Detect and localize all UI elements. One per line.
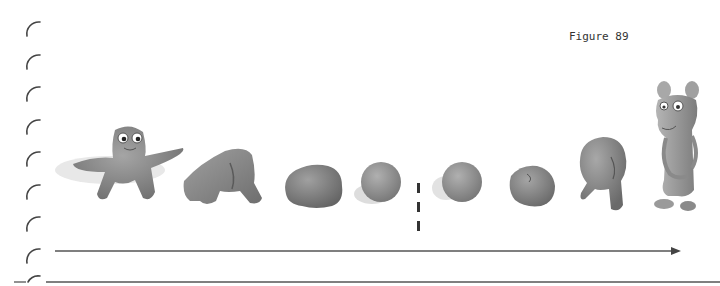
clay-lump-right [505,160,560,210]
page-baseline [0,276,720,286]
divider-dash [417,202,420,212]
mouse-clay-figure [648,80,708,215]
partially-formed-clay-figure [575,135,635,215]
clay-lump-left [280,160,350,210]
timeline-arrow [55,245,685,257]
clay-ball-right [428,158,488,210]
collapsed-clay-figure [180,143,265,208]
sequence-divider [417,183,420,233]
clay-ball-left [350,158,405,210]
divider-dash [417,221,420,231]
figure-label: Figure 89 [569,30,629,43]
star-clay-figure [55,120,190,205]
spiral-binding [0,0,50,286]
notebook-page: Figure 89 [0,0,720,286]
divider-dash [417,183,420,193]
